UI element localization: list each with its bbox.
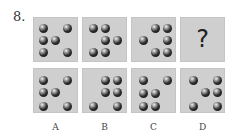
ball-icon bbox=[163, 24, 172, 33]
option-d-panel[interactable] bbox=[180, 68, 225, 113]
ball-icon bbox=[101, 88, 110, 97]
ball-icon bbox=[213, 88, 222, 97]
ball-icon bbox=[113, 88, 122, 97]
ball-icon bbox=[39, 48, 48, 57]
option-a-label[interactable]: A bbox=[33, 122, 78, 132]
ball-icon bbox=[163, 36, 172, 45]
ball-icon bbox=[151, 102, 160, 111]
ball-icon bbox=[39, 88, 48, 97]
option-c-label[interactable]: C bbox=[131, 122, 176, 132]
ball-icon bbox=[89, 48, 98, 57]
ball-icon bbox=[51, 36, 60, 45]
ball-icon bbox=[89, 102, 98, 111]
ball-icon bbox=[139, 89, 148, 98]
ball-icon bbox=[139, 36, 148, 45]
ball-icon bbox=[63, 102, 72, 111]
ball-icon bbox=[63, 48, 72, 57]
ball-icon bbox=[89, 24, 98, 33]
ball-icon bbox=[51, 88, 60, 97]
ball-icon bbox=[189, 76, 198, 85]
ball-icon bbox=[151, 89, 160, 98]
ball-icon bbox=[39, 24, 48, 33]
ball-icon bbox=[189, 102, 198, 111]
question-number: 8. bbox=[13, 9, 25, 24]
question-mark-icon: ? bbox=[180, 17, 225, 62]
ball-icon bbox=[151, 48, 160, 57]
ball-icon bbox=[201, 88, 210, 97]
ball-icon bbox=[139, 76, 148, 85]
ball-icon bbox=[63, 24, 72, 33]
ball-icon bbox=[101, 24, 110, 33]
ball-icon bbox=[213, 102, 222, 111]
ball-icon bbox=[113, 36, 122, 45]
ball-icon bbox=[113, 76, 122, 85]
ball-icon bbox=[39, 36, 48, 45]
option-b-panel[interactable] bbox=[82, 68, 127, 113]
ball-icon bbox=[101, 36, 110, 45]
ball-icon bbox=[113, 102, 122, 111]
option-d-label[interactable]: D bbox=[180, 122, 225, 132]
sequence-panel-unknown: ? bbox=[180, 17, 225, 62]
ball-icon bbox=[101, 76, 110, 85]
option-c-panel[interactable] bbox=[131, 68, 176, 113]
sequence-panel-2 bbox=[82, 17, 127, 62]
option-b-label[interactable]: B bbox=[82, 122, 127, 132]
ball-icon bbox=[213, 76, 222, 85]
sequence-panel-1 bbox=[33, 17, 78, 62]
ball-icon bbox=[151, 24, 160, 33]
ball-icon bbox=[39, 102, 48, 111]
ball-icon bbox=[101, 48, 110, 57]
ball-icon bbox=[139, 102, 148, 111]
ball-icon bbox=[39, 76, 48, 85]
ball-icon bbox=[163, 76, 172, 85]
ball-icon bbox=[163, 48, 172, 57]
ball-icon bbox=[63, 76, 72, 85]
option-a-panel[interactable] bbox=[33, 68, 78, 113]
sequence-panel-3 bbox=[131, 17, 176, 62]
